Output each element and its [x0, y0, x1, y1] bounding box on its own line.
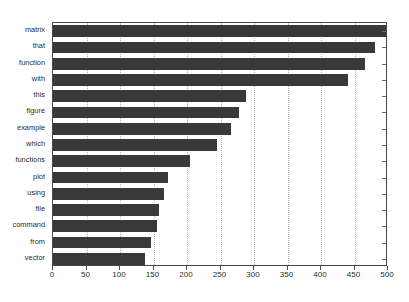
x-axis-label-0: 0	[50, 271, 54, 279]
y-axis-label-functions: functions	[15, 156, 45, 163]
y-axis-label-function: function	[19, 59, 45, 66]
y-axis-label-file: file	[36, 205, 45, 212]
x-axis-labels: 050100150200250300350400450500	[0, 271, 409, 285]
right-tick	[382, 210, 386, 211]
right-tick	[382, 112, 386, 113]
y-axis-label-vector: vector	[25, 254, 45, 261]
bar-plot	[53, 172, 168, 184]
y-axis-label-command: command	[13, 221, 45, 228]
right-tick	[382, 194, 386, 195]
y-axis-label-matrix: matrix	[25, 26, 45, 33]
right-tick	[382, 80, 386, 81]
x-axis-label-250: 250	[213, 271, 226, 279]
right-tick	[382, 259, 386, 260]
bar-file	[53, 204, 159, 216]
bar-command	[53, 220, 157, 232]
x-axis-label-450: 450	[347, 271, 360, 279]
x-axis-label-200: 200	[179, 271, 192, 279]
bars	[53, 23, 386, 265]
x-axis-label-100: 100	[112, 271, 125, 279]
y-axis-label-example: example	[17, 124, 45, 131]
plot-area	[52, 22, 387, 266]
y-axis-label-plot: plot	[33, 173, 45, 180]
y-axis-label-this: this	[33, 91, 45, 98]
right-tick	[382, 243, 386, 244]
right-tick	[382, 64, 386, 65]
y-axis-labels: matrixthatfunctionwiththisfigureexamplew…	[0, 22, 49, 266]
bar-functions	[53, 155, 190, 167]
y-axis-label-that: that	[33, 42, 45, 49]
x-axis-label-50: 50	[81, 271, 90, 279]
right-tick	[382, 31, 386, 32]
bar-with	[53, 74, 348, 86]
x-axis-label-350: 350	[280, 271, 293, 279]
bar-figure	[53, 107, 239, 119]
right-tick	[382, 226, 386, 227]
y-axis-label-which: which	[26, 140, 45, 147]
x-axis-label-400: 400	[313, 271, 326, 279]
y-axis-label-figure: figure	[27, 107, 46, 114]
right-tick	[382, 145, 386, 146]
bar-function	[53, 58, 365, 70]
x-axis-label-300: 300	[246, 271, 259, 279]
y-axis-label-using: using	[27, 189, 45, 196]
bar-vector	[53, 253, 145, 265]
bar-using	[53, 188, 164, 200]
right-tick	[382, 178, 386, 179]
y-axis-label-from: from	[30, 238, 45, 245]
bar-matrix	[53, 25, 387, 37]
right-tick	[382, 129, 386, 130]
right-tick	[382, 161, 386, 162]
bar-this	[53, 90, 246, 102]
bar-which	[53, 139, 217, 151]
bar-chart: matrixthatfunctionwiththisfigureexamplew…	[0, 0, 409, 302]
bar-from	[53, 237, 151, 249]
bar-that	[53, 42, 375, 54]
x-axis-label-150: 150	[146, 271, 159, 279]
bar-example	[53, 123, 231, 135]
y-axis-label-with: with	[32, 75, 45, 82]
right-tick	[382, 47, 386, 48]
right-tick	[382, 96, 386, 97]
x-axis-label-500: 500	[380, 271, 393, 279]
